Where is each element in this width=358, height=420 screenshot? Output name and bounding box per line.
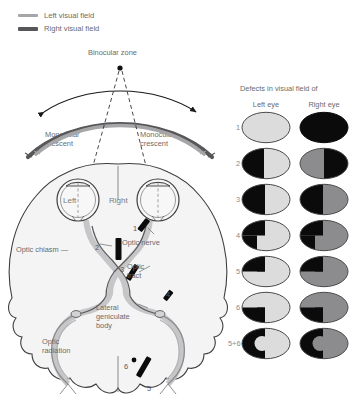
defect-row-number: 6 <box>228 303 240 312</box>
defect-field-right-eye <box>298 111 350 144</box>
line-swatch-icon <box>18 27 38 31</box>
optic-chiasm-label: Optic chiasm — <box>16 245 68 254</box>
defect-row: 3 <box>240 181 358 217</box>
lesion-number-1: 1 <box>133 224 137 233</box>
line-swatch-icon <box>18 14 38 17</box>
lateral-geniculate-body-right <box>155 311 165 318</box>
lesion-number-2: 2 <box>95 243 99 252</box>
defect-row-number: 4 <box>228 231 240 240</box>
defect-field-right-eye <box>298 291 350 324</box>
eye-right-label: Right <box>109 196 128 205</box>
defect-field-left-eye <box>240 291 292 324</box>
defect-row-number: 1 <box>228 123 240 132</box>
left-visual-field-arc <box>36 126 204 154</box>
defect-field-right-eye <box>298 219 350 252</box>
defect-field-left-eye <box>240 255 292 288</box>
lesion-number-6: 6 <box>124 362 128 371</box>
defect-field-left-eye <box>240 327 292 360</box>
defect-row-number: 5+6 <box>228 339 240 348</box>
visual-field-arc-diagram <box>0 42 240 167</box>
defect-row-number: 3 <box>228 195 240 204</box>
sight-line-dashed <box>93 71 146 166</box>
legend: Left visual field Right visual field <box>18 10 99 36</box>
legend-label: Left visual field <box>44 11 94 20</box>
lesion-number-5: 5 <box>147 384 151 393</box>
defect-field-left-eye <box>240 111 292 144</box>
defect-row-number: 2 <box>228 159 240 168</box>
defect-field-right-eye <box>298 183 350 216</box>
lesion-number-4: 4 <box>166 290 170 299</box>
optic-radiation-label: Optic radiation <box>42 337 70 355</box>
lateral-geniculate-body-left <box>71 311 81 318</box>
defects-panel-title: Defects in visual field of <box>240 84 358 93</box>
defect-row-number: 5 <box>228 267 240 276</box>
defect-field-left-eye <box>240 183 292 216</box>
visual-field-defects-panel: Defects in visual field of Left eye Righ… <box>240 84 358 361</box>
lesion-marker-2 <box>116 238 122 260</box>
lateral-geniculate-body-label: Lateral geniculate body <box>96 303 130 330</box>
defects-left-eye-header: Left eye <box>240 100 292 109</box>
defect-field-right-eye <box>298 255 350 288</box>
eye-right <box>137 179 179 221</box>
arc-end-ticks-light <box>34 151 206 154</box>
defect-field-left-eye <box>240 147 292 180</box>
defect-field-right-eye <box>298 147 350 180</box>
defect-field-left-eye <box>240 219 292 252</box>
lesion-number-3: 3 <box>120 265 124 274</box>
legend-item-left-visual-field: Left visual field <box>18 10 99 21</box>
defect-field-right-eye <box>298 327 350 360</box>
eye-left-label: Left <box>63 196 76 205</box>
legend-item-right-visual-field: Right visual field <box>18 23 99 34</box>
defect-row: 5 <box>240 253 358 289</box>
defect-row: 2 <box>240 145 358 181</box>
defect-row: 6 <box>240 289 358 325</box>
fixation-point <box>117 65 122 70</box>
binocular-zone-arrow <box>44 91 196 112</box>
legend-label: Right visual field <box>44 24 99 33</box>
defect-row: 4 <box>240 217 358 253</box>
arc-end-ticks <box>25 153 215 157</box>
lesion-marker-6 <box>132 358 137 363</box>
defect-row: 5+6 <box>240 325 358 361</box>
defect-row: 1 <box>240 109 358 145</box>
optic-tract-label: Optic tract <box>127 262 144 280</box>
optic-nerve-label: Optic nerve <box>122 238 160 247</box>
defects-right-eye-header: Right eye <box>298 100 350 109</box>
